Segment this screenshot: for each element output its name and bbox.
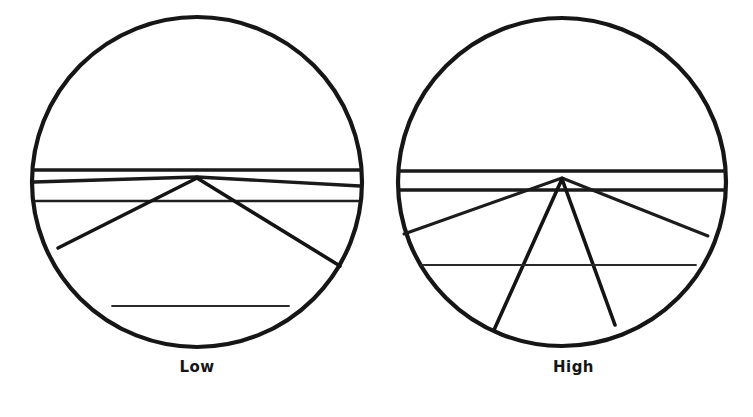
ray-high-steep-right: [562, 179, 615, 325]
horizon-slant-low-left: [34, 177, 197, 182]
ray-high-shallow-left: [404, 178, 562, 234]
figure-root: Low High: [0, 0, 753, 417]
diagram-canvas: [0, 0, 753, 417]
ray-high-shallow-right: [562, 178, 708, 236]
ray-high-steep-left: [494, 179, 562, 330]
panel-low: [32, 17, 362, 347]
ray-low-down-right: [197, 178, 340, 266]
horizon-slant-low-right: [197, 177, 360, 186]
ray-low-down-left: [58, 178, 197, 248]
caption-high: High: [394, 358, 753, 376]
panel-high: [398, 18, 726, 346]
caption-low: Low: [0, 358, 394, 376]
